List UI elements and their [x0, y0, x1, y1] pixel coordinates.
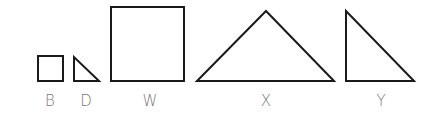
triangle-y — [346, 11, 414, 81]
square-w — [111, 7, 184, 81]
triangle-d — [74, 57, 99, 81]
label-b: B — [45, 92, 55, 110]
label-d: D — [80, 92, 92, 110]
label-x: X — [261, 92, 271, 110]
shapes-diagram: B D W X Y — [0, 0, 431, 115]
triangle-x — [197, 11, 334, 81]
label-y: Y — [376, 92, 385, 110]
label-w: W — [143, 92, 158, 110]
square-b — [38, 56, 63, 81]
